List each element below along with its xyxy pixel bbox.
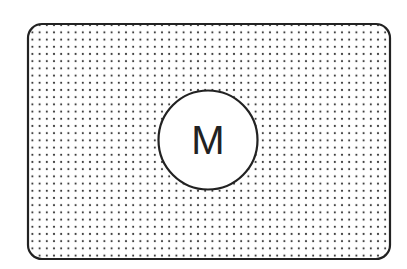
node-label: M (158, 90, 258, 190)
